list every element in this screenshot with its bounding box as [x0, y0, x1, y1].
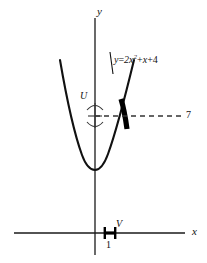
delta-y-bracket-label: U — [80, 91, 87, 101]
figure-canvas — [0, 0, 207, 263]
equation-leader-line — [110, 52, 113, 74]
delta-x-bracket — [104, 227, 116, 239]
equation-constant: 4 — [153, 54, 158, 65]
highlighted-curve-segment — [121, 99, 127, 129]
delta-x-bracket-label: V — [116, 219, 122, 229]
y-axis-label: y — [97, 6, 102, 17]
level-line-value-label: 7 — [186, 110, 191, 120]
parabola-figure: y x y=2x2+x+4 U V 7 1 — [0, 0, 207, 263]
curve-equation-label: y=2x2+x+4 — [114, 54, 158, 65]
x-unit-value-label: 1 — [106, 240, 111, 250]
x-axis-label: x — [192, 226, 197, 237]
delta-y-bracket — [87, 103, 103, 128]
